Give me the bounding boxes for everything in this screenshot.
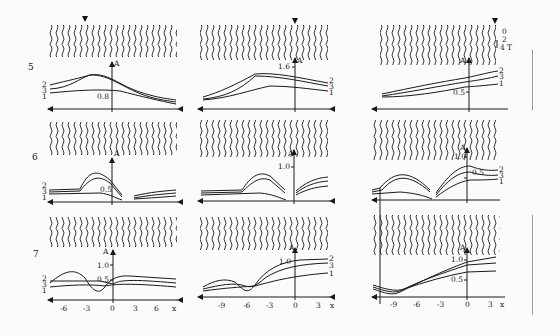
y-tick: 1.0 — [97, 261, 109, 270]
x-tick: -3 — [437, 300, 445, 309]
y-tick: 1.0 — [454, 152, 466, 161]
x-tick: 3 — [488, 300, 493, 309]
y-tick: 0.5 — [97, 275, 109, 284]
x-tick: -6 — [60, 304, 68, 313]
panel-7-3 — [372, 215, 505, 300]
panel-7-2 — [198, 217, 330, 300]
row-label-6: 6 — [32, 152, 38, 162]
y-axis-label: A — [102, 247, 109, 256]
scan-margin-line — [532, 50, 533, 110]
panel-7-1 — [47, 217, 178, 303]
x-axis-label: x — [172, 304, 177, 313]
scan-margin-line — [532, 215, 533, 315]
y-tick: 0.5 — [451, 275, 463, 284]
x-axis-label: x — [330, 301, 335, 310]
panel-5-1 — [47, 16, 178, 112]
y-axis-label: A — [459, 243, 466, 252]
panel-6-2 — [198, 120, 330, 204]
curve-label: 1 — [499, 79, 504, 88]
panel-6-1 — [47, 122, 178, 205]
panel-5-2 — [198, 18, 330, 112]
x-tick: 0 — [465, 300, 470, 309]
x-tick: -3 — [266, 301, 274, 310]
y-axis-label: A — [296, 56, 303, 65]
x-tick: 3 — [133, 304, 138, 313]
x-tick: 6 — [154, 304, 159, 313]
curve-label: 1 — [329, 269, 334, 278]
y-tick: 0.5 — [472, 168, 484, 177]
time-tick: 4 — [500, 43, 505, 52]
y-tick: 1.0 — [451, 255, 463, 264]
panel-5-3 — [372, 18, 508, 112]
y-axis-label: A — [459, 56, 466, 65]
row-label-7: 7 — [33, 249, 39, 259]
y-tick: 1.0 — [279, 257, 291, 266]
x-tick: -6 — [243, 301, 251, 310]
row-label-5: 5 — [28, 62, 34, 72]
seismic-amplitude-figure: A A A A A A A A A 0.8 1.6 0.5 0.5 1.0 1.… — [0, 0, 559, 335]
curve-label: 1 — [329, 88, 334, 97]
y-axis-label: A — [288, 243, 295, 252]
y-tick: 1.0 — [278, 162, 290, 171]
x-tick: 0 — [293, 301, 298, 310]
y-tick: 0.5 — [100, 185, 112, 194]
x-tick: -9 — [390, 300, 398, 309]
x-tick: -3 — [83, 304, 91, 313]
x-tick: 0 — [110, 304, 115, 313]
y-axis-label: A — [113, 59, 120, 68]
x-axis-label: x — [500, 300, 505, 309]
time-unit: T — [507, 43, 512, 52]
y-axis-label: A — [287, 149, 294, 158]
curve-label: 1 — [42, 193, 47, 202]
y-tick: 0.8 — [97, 92, 109, 101]
curve-label: 1 — [499, 177, 504, 186]
x-tick: 3 — [316, 301, 321, 310]
panel-6-3 — [372, 120, 500, 304]
y-tick: 1.6 — [278, 62, 290, 71]
curve-label: 1 — [42, 92, 47, 101]
x-tick: -9 — [218, 301, 226, 310]
x-tick: -6 — [413, 300, 421, 309]
y-tick: 0.5 — [453, 88, 465, 97]
y-axis-label: A — [459, 143, 466, 152]
curve-label: 1 — [42, 286, 47, 295]
y-axis-label: A — [113, 149, 120, 158]
